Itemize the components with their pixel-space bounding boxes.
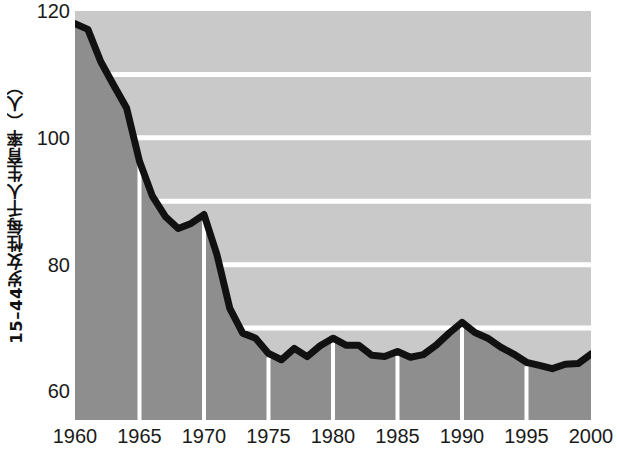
x-tick-label: 1985 bbox=[363, 424, 433, 448]
y-tick-label: 100 bbox=[28, 128, 70, 148]
x-tick-label: 1970 bbox=[169, 424, 239, 448]
plot-svg bbox=[75, 11, 591, 420]
y-tick-label: 80 bbox=[28, 255, 70, 275]
x-tick-label: 1960 bbox=[40, 424, 110, 448]
x-tick-label: 1965 bbox=[105, 424, 175, 448]
x-tick-label: 1995 bbox=[492, 424, 562, 448]
x-tick-label: 1990 bbox=[427, 424, 497, 448]
x-axis-tick-labels: 196019651970197519801985199019952000 bbox=[0, 424, 601, 454]
x-tick-label: 2000 bbox=[556, 424, 617, 448]
y-tick-label: 120 bbox=[28, 1, 70, 21]
y-tick-label: 60 bbox=[28, 381, 70, 401]
x-tick-label: 1980 bbox=[298, 424, 368, 448]
y-axis-tick-labels: 6080100120 bbox=[26, 0, 70, 420]
plot-area bbox=[75, 11, 591, 420]
x-tick-label: 1975 bbox=[234, 424, 304, 448]
